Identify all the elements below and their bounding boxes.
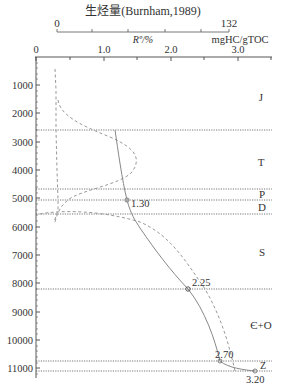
stratum-Z: Z <box>260 360 266 371</box>
x-axis <box>35 57 272 61</box>
top-tick-0: 0 <box>54 17 60 29</box>
annotation-1-30: 1.30 <box>131 198 149 209</box>
y-tick-11000: 11000 <box>7 363 33 374</box>
annotation-2-70: 2.70 <box>215 349 233 360</box>
x-tick-1: 1.0 <box>97 44 110 55</box>
x-tick-2: 2.0 <box>164 44 177 55</box>
stratum-D: D <box>258 201 266 213</box>
x-tick-0: 0 <box>33 44 38 55</box>
hc-curve-upper <box>55 100 136 222</box>
y-tick-8000: 8000 <box>12 278 33 289</box>
ro-axis-label: Rº/% <box>132 34 153 45</box>
y-tick-10000: 10000 <box>7 335 33 346</box>
stratum-T: T <box>258 156 265 168</box>
marker-1-30 <box>125 198 129 202</box>
y-tick-3000: 3000 <box>12 137 33 148</box>
y-axis <box>36 57 40 378</box>
y-tick-2000: 2000 <box>12 108 33 119</box>
y-tick-6000: 6000 <box>12 222 33 233</box>
stratum-J: J <box>259 91 264 103</box>
strata-boundaries <box>36 130 272 371</box>
annotation-2-25: 2.25 <box>192 277 210 288</box>
y-tick-4000: 4000 <box>12 165 33 176</box>
x-tick-3: 3.0 <box>231 44 244 55</box>
y-tick-1000: 1000 <box>12 80 33 91</box>
stratum-S: S <box>259 246 265 258</box>
y-tick-7000: 7000 <box>12 250 33 261</box>
top-axis <box>57 29 229 32</box>
y-tick-9000: 9000 <box>12 307 33 318</box>
stratum-P: P <box>259 188 265 200</box>
thermal-maturity-chart: 生烃量(Burnham,1989) 0 132 Rº/% mgHC/gTOC 0… <box>0 0 285 389</box>
y-tick-5000: 5000 <box>12 193 33 204</box>
top-axis-title: 生烃量(Burnham,1989) <box>85 4 201 18</box>
hc-curve-shallow <box>54 69 58 222</box>
ro-curve <box>115 130 255 371</box>
stratum-cambrian-ordovician: Є+O <box>250 319 271 331</box>
hc-curve-deep <box>40 212 235 371</box>
annotation-3-20: 3.20 <box>246 374 264 385</box>
top-tick-max: 132 <box>221 17 238 29</box>
